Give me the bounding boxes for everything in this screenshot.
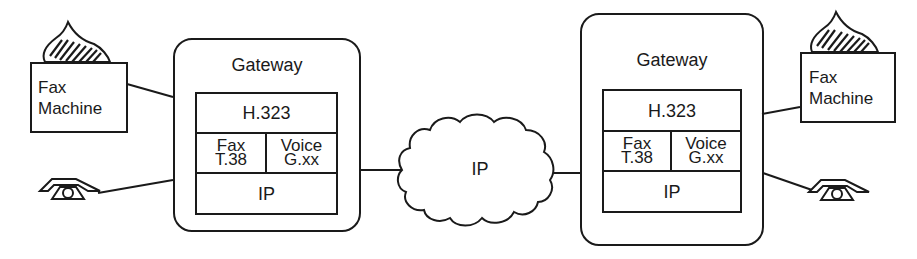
right-fax-label-line2: Machine: [809, 88, 873, 109]
edge-left-phone: [98, 180, 173, 193]
left-gateway-t38-label: T.38: [196, 153, 266, 167]
left-fax-label: Fax Machine: [38, 77, 102, 119]
left-fax-label-line2: Machine: [38, 98, 102, 119]
right-gateway-title: Gateway: [581, 51, 763, 69]
right-gateway-box: [581, 14, 763, 245]
left-gateway-fax-t38: Fax T.38: [196, 139, 266, 167]
edge-right-phone: [763, 173, 812, 190]
right-gateway-fax-t38: Fax T.38: [603, 137, 671, 165]
left-fax-label-line1: Fax: [38, 77, 102, 98]
left-gateway-voice-gxx: Voice G.xx: [266, 139, 337, 167]
right-gateway-voice-gxx: Voice G.xx: [671, 137, 741, 165]
right-fax-label: Fax Machine: [809, 67, 873, 109]
left-gateway-h323: H.323: [196, 104, 337, 122]
right-gateway-t38-label: T.38: [603, 151, 671, 165]
left-gateway-gxx-label: G.xx: [266, 153, 337, 167]
right-gateway-h323: H.323: [603, 102, 741, 120]
left-telephone-icon: [40, 179, 100, 199]
right-gateway-ip: IP: [603, 183, 741, 201]
edge-right-fax: [762, 107, 800, 114]
right-fax-label-line1: Fax: [809, 67, 873, 88]
left-fax-paper-icon: [43, 22, 110, 62]
edge-left-fax: [127, 84, 173, 97]
right-fax-paper-icon: [811, 12, 878, 52]
left-gateway-ip: IP: [196, 185, 337, 203]
diagram-canvas: [0, 0, 917, 259]
left-gateway-title: Gateway: [174, 56, 360, 74]
right-telephone-icon: [809, 180, 869, 200]
right-gateway-gxx-label: G.xx: [671, 151, 741, 165]
cloud-ip-label: IP: [430, 160, 530, 178]
